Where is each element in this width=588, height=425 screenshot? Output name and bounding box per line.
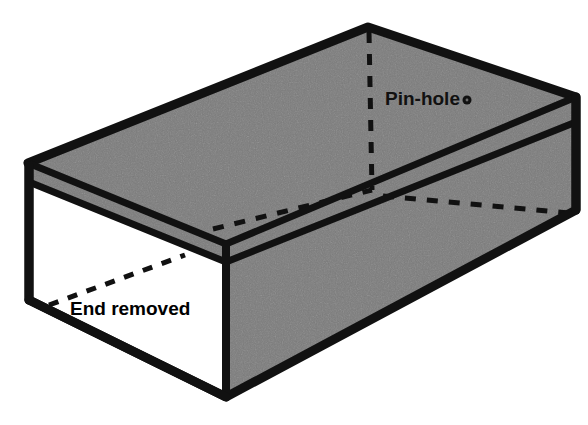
figure-root: Pin-hole End removed (0, 0, 588, 425)
box-illustration: Pin-hole End removed (0, 0, 588, 425)
pin-hole-dot-center (466, 99, 469, 102)
end-removed-label: End removed (70, 298, 190, 319)
pin-hole-label: Pin-hole (385, 88, 460, 109)
